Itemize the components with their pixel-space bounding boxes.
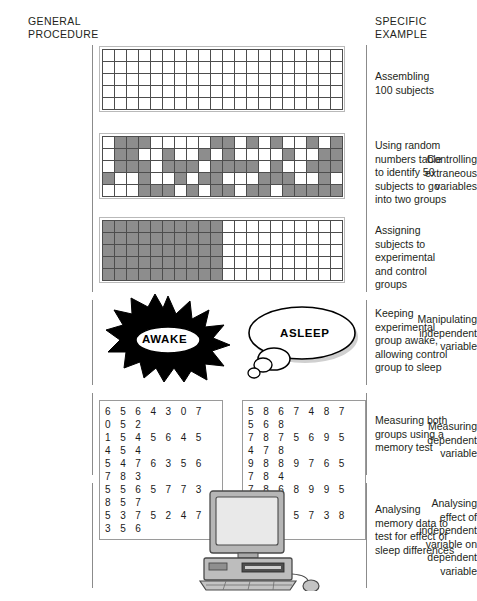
grid-cell-filled xyxy=(330,184,343,197)
grid-row xyxy=(102,49,342,61)
caption-keeping-experimental-group-awake: Keeping experimental group awake, allowi… xyxy=(375,307,475,375)
grid-row xyxy=(102,148,342,160)
grid-row xyxy=(102,184,342,196)
caption-measuring-both-groups: Measuring both groups using a memory tes… xyxy=(375,414,475,455)
divider-right-segment-2 xyxy=(366,300,367,385)
grid-row xyxy=(102,160,342,172)
diagram-canvas: GENERAL PROCEDURE SPECIFIC EXAMPLE Assem… xyxy=(0,0,477,601)
grid-row xyxy=(102,136,342,148)
divider-left-segment-4 xyxy=(92,483,93,588)
divider-left-segment-2 xyxy=(92,300,93,385)
caption-analysing-memory-data: Analysing memory data to test for effect… xyxy=(375,503,475,557)
column-header-specific-example: SPECIFIC EXAMPLE xyxy=(375,15,427,41)
awake-label: AWAKE xyxy=(142,333,187,345)
asleep-label: ASLEEP xyxy=(280,327,330,339)
desktop-computer-icon xyxy=(198,489,328,591)
grid-row xyxy=(102,220,342,232)
grid-row xyxy=(102,97,342,109)
grid-cell-empty xyxy=(330,268,343,281)
divider-left-segment-3 xyxy=(92,393,93,475)
grid-cell-empty xyxy=(330,97,343,110)
grid-row xyxy=(102,244,342,256)
caption-assigning-subjects: Assigning subjects to experimental and c… xyxy=(375,224,475,292)
grid-random-selection xyxy=(99,133,345,199)
grid-row xyxy=(102,172,342,184)
divider-right-segment-1 xyxy=(366,45,367,292)
grid-two-groups xyxy=(99,217,345,283)
asleep-thought-bubble-icon xyxy=(240,300,360,382)
column-header-general-procedure: GENERAL PROCEDURE xyxy=(28,15,99,41)
divider-right-segment-4 xyxy=(366,483,367,588)
divider-right-segment-3 xyxy=(366,393,367,475)
grid-row xyxy=(102,232,342,244)
grid-row xyxy=(102,256,342,268)
grid-row xyxy=(102,268,342,280)
caption-using-random-numbers: Using random numbers table to identify 5… xyxy=(375,139,475,207)
divider-left-segment-1 xyxy=(92,45,93,292)
caption-assembling-subjects: Assembling 100 subjects xyxy=(375,70,475,97)
grid-row xyxy=(102,73,342,85)
grid-row xyxy=(102,61,342,73)
grid-all-subjects xyxy=(99,46,345,112)
grid-row xyxy=(102,85,342,97)
